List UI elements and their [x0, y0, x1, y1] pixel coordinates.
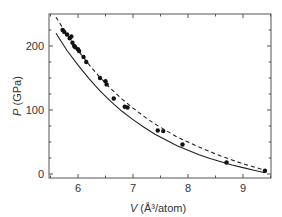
data-point [104, 82, 108, 86]
data-point [81, 55, 85, 59]
x-tick-label: 7 [130, 182, 136, 194]
data-point [84, 60, 88, 64]
data-point [69, 34, 73, 38]
data-point [125, 105, 129, 109]
data-point [161, 129, 165, 133]
data-point [98, 76, 102, 80]
data-point [180, 142, 184, 146]
x-tick-label: 6 [75, 182, 81, 194]
data-point [263, 169, 267, 173]
plot-border [49, 14, 271, 178]
dashed-fit-curve [56, 17, 265, 170]
x-tick-label: 8 [185, 182, 191, 194]
plot-frame [49, 14, 271, 178]
data-point [65, 32, 69, 36]
y-tick-label: 0 [38, 168, 44, 180]
tick-labels: 67890100200 [26, 40, 246, 194]
data-point [156, 128, 160, 132]
x-tick-label: 9 [240, 182, 246, 194]
y-axis-label: P (GPa) [11, 76, 23, 116]
data-point [224, 160, 228, 164]
solid-theory-curve [56, 33, 265, 173]
x-axis-label: V (Å³/atom) [130, 202, 186, 214]
axis-ticks [49, 14, 271, 178]
data-points [60, 28, 267, 173]
data-point [112, 96, 116, 100]
y-tick-label: 200 [26, 40, 44, 52]
y-tick-label: 100 [26, 104, 44, 116]
pressure-volume-chart: 67890100200 V (Å³/atom) P (GPa) [0, 0, 282, 217]
data-point [77, 49, 81, 53]
curves [56, 17, 265, 173]
